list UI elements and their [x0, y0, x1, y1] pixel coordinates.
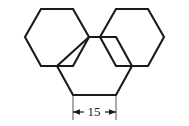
- dimension-label: 15: [88, 104, 101, 119]
- figure-root: 15: [0, 0, 189, 126]
- hexagon-figure: 15: [0, 0, 189, 126]
